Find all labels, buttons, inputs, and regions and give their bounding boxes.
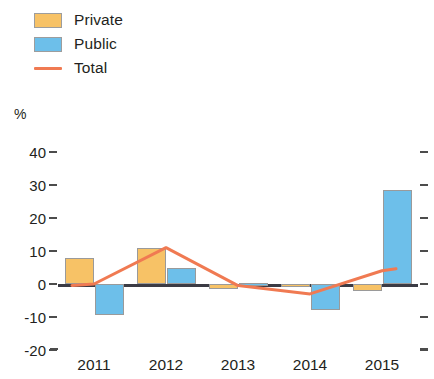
y-tick-mark (49, 283, 57, 285)
x-axis-end-tick (50, 348, 58, 350)
x-axis-end-tick (420, 348, 428, 350)
bar-private-2012 (137, 248, 166, 284)
x-tick-label: 2014 (293, 356, 327, 374)
y-tick-label: 40 (0, 144, 46, 161)
y-tick-mark-right (420, 283, 428, 285)
bar-private-2013 (209, 284, 238, 289)
x-tick-label: 2011 (77, 356, 110, 374)
x-tick-label: 2013 (221, 356, 255, 374)
y-tick-mark-right (420, 151, 428, 153)
x-tick-label: 2015 (365, 356, 399, 374)
y-tick-mark (49, 316, 57, 318)
bar-public-2015 (383, 190, 412, 284)
y-tick-label: -10 (0, 309, 46, 326)
y-tick-mark-right (420, 217, 428, 219)
total-line (0, 0, 434, 379)
x-tick-label: 2012 (149, 356, 183, 374)
bar-private-2015 (353, 284, 382, 291)
y-tick-label: 30 (0, 177, 46, 194)
bar-public-2013 (239, 283, 268, 286)
y-tick-mark (49, 151, 57, 153)
y-tick-mark (49, 250, 57, 252)
y-axis-unit-label: % (14, 106, 26, 122)
bar-private-2014 (281, 284, 310, 287)
bar-public-2012 (167, 268, 196, 285)
y-tick-label: 0 (0, 276, 46, 293)
y-tick-mark-right (420, 316, 428, 318)
bar-line-chart: % 403020100-10-20 20112012201320142015 (0, 0, 434, 379)
bar-public-2014 (311, 284, 340, 310)
y-tick-mark-right (420, 184, 428, 186)
y-tick-mark-right (420, 250, 428, 252)
y-tick-label: 20 (0, 210, 46, 227)
y-tick-mark (49, 217, 57, 219)
bar-public-2011 (95, 284, 124, 315)
y-tick-label: 10 (0, 243, 46, 260)
y-tick-label: -20 (0, 342, 46, 359)
y-tick-mark (49, 184, 57, 186)
bar-private-2011 (65, 258, 94, 284)
